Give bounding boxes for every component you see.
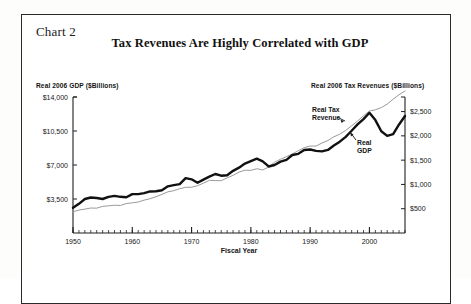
x-axis-tick-labels: 195019601970198019902000 bbox=[65, 238, 377, 245]
series-line-real-gdp bbox=[73, 91, 405, 212]
axis-lines bbox=[73, 97, 405, 233]
left-axis-tick-labels: $3,500$7,000$10,500$14,000 bbox=[43, 94, 68, 203]
left-tick-label: $10,500 bbox=[43, 128, 68, 135]
x-tick-label: 1950 bbox=[65, 238, 81, 245]
x-tick-label: 1960 bbox=[124, 238, 140, 245]
series-line-real-tax-revenue bbox=[73, 113, 405, 208]
x-tick-label: 1990 bbox=[302, 238, 318, 245]
left-tick-label: $3,500 bbox=[47, 196, 69, 203]
right-axis-tick-labels: $500$1,000$1,500$2,000$2,500 bbox=[410, 108, 432, 212]
left-axis-ticks bbox=[73, 97, 77, 199]
right-tick-label: $1,000 bbox=[410, 181, 432, 188]
annotation-real-gdp-line2: GDP bbox=[357, 147, 372, 154]
right-axis-ticks bbox=[401, 97, 405, 209]
right-tick-label: $1,500 bbox=[410, 157, 432, 164]
annotation-real-tax-revenue-line2: Revenue bbox=[312, 114, 341, 121]
x-tick-label: 1980 bbox=[243, 238, 259, 245]
x-axis-title: Fiscal Year bbox=[221, 247, 258, 254]
x-tick-label: 1970 bbox=[184, 238, 200, 245]
annotation-real-gdp-line1: Real bbox=[357, 139, 371, 146]
left-tick-label: $14,000 bbox=[43, 94, 68, 101]
right-tick-label: $2,000 bbox=[410, 132, 432, 139]
right-tick-label: $500 bbox=[410, 205, 426, 212]
x-tick-label: 2000 bbox=[362, 238, 378, 245]
left-tick-label: $7,000 bbox=[47, 162, 69, 169]
annotation-real-tax-revenue-line1: Real Tax bbox=[312, 106, 340, 113]
right-tick-label: $2,500 bbox=[410, 108, 432, 115]
